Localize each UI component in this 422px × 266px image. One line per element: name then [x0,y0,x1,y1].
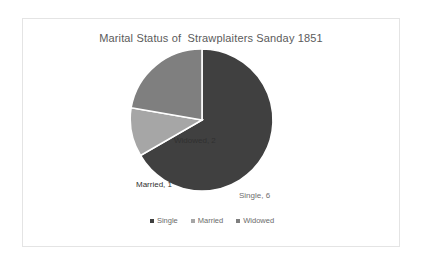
legend-item-widowed[interactable]: Widowed [236,217,274,225]
legend-swatch-single-icon [150,219,154,223]
legend-swatch-married-icon [191,219,195,223]
pie-chart-svg [127,45,277,195]
legend-label-married: Married [198,217,223,225]
chart-title: Marital Status of Strawplaiters Sanday 1… [23,32,399,44]
legend-label-widowed: Widowed [243,217,274,225]
legend-swatch-widowed-icon [236,219,240,223]
legend-label-single: Single [157,217,178,225]
chart-legend: Single Married Widowed [23,217,401,225]
legend-item-married[interactable]: Married [191,217,223,225]
chart-frame: Marital Status of Strawplaiters Sanday 1… [22,18,400,247]
legend-item-single[interactable]: Single [150,217,178,225]
pie-chart-area: Widowed, 2 Married, 1 Single, 6 [23,45,401,210]
pie-slice-widowed[interactable] [131,49,202,120]
